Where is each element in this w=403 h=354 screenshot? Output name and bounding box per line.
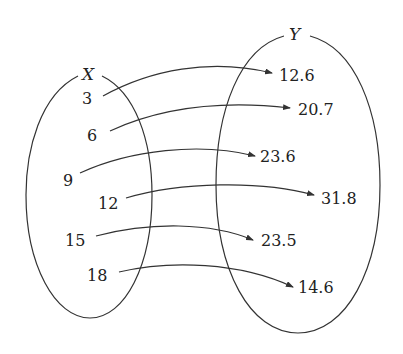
mapping-arrow-12 [126,185,314,198]
mapping-arrows [80,66,314,287]
codomain-elements: 12.6 20.7 23.6 31.8 23.5 14.6 [260,66,357,297]
codomain-element: 31.8 [321,189,357,208]
set-y-label: Y [289,24,302,44]
codomain-element: 20.7 [298,100,334,119]
domain-element: 15 [65,231,85,250]
codomain-element: 23.5 [261,231,297,250]
domain-element: 6 [87,126,97,145]
mapping-arrow-6 [110,105,290,131]
set-x-label: X [80,64,95,84]
domain-element: 9 [63,171,73,190]
codomain-element: 12.6 [279,66,315,85]
codomain-element: 23.6 [260,147,296,166]
mapping-arrow-15 [96,226,253,240]
domain-element: 3 [82,89,92,108]
mapping-arrow-3 [103,66,272,96]
mapping-arrow-18 [119,265,293,287]
mapping-arrow-9 [80,149,255,173]
domain-elements: 3 6 9 12 15 18 [63,89,118,285]
domain-element: 18 [87,266,107,285]
mapping-diagram: X Y 3 6 9 12 15 18 12.6 20.7 23.6 31.8 2… [0,0,403,354]
domain-element: 12 [98,194,118,213]
codomain-element: 14.6 [298,278,334,297]
